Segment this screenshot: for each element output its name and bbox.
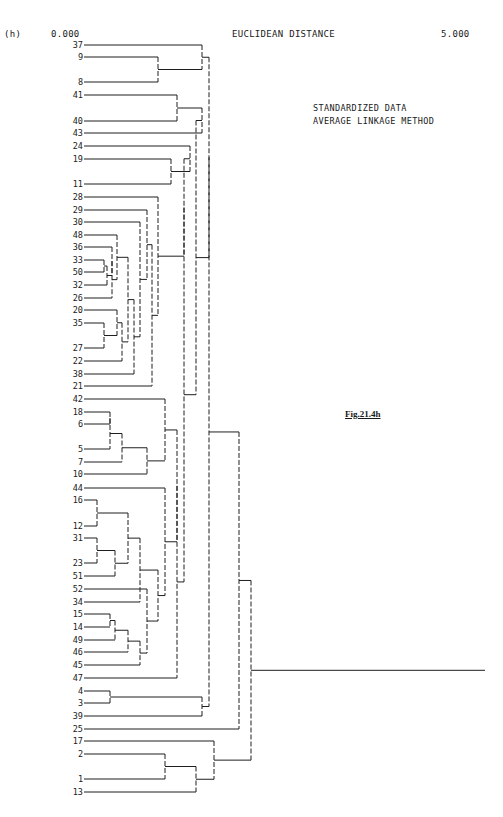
leaf-label: 50: [73, 267, 83, 277]
leaf-label: 24: [73, 141, 83, 151]
leaf-label: 35: [73, 318, 83, 328]
leaf-label: 5: [78, 444, 83, 454]
leaf-label: 4: [78, 686, 83, 696]
leaf-label: 31: [73, 533, 83, 543]
leaf-label: 12: [73, 521, 83, 531]
leaf-label: 30: [73, 217, 83, 227]
leaf-label: 38: [73, 369, 83, 379]
leaf-label: 48: [73, 230, 83, 240]
leaf-label: 15: [73, 609, 83, 619]
leaf-label: 7: [78, 457, 83, 467]
leaf-label: 2: [78, 749, 83, 759]
leaf-label: 47: [73, 673, 83, 683]
leaf-label: 25: [73, 724, 83, 734]
leaf-label: 17: [73, 736, 83, 746]
leaf-label: 23: [73, 558, 83, 568]
leaf-label: 33: [73, 255, 83, 265]
leaf-label: 1: [78, 774, 83, 784]
leaf-label: 18: [73, 407, 83, 417]
leaf-label: 3: [78, 698, 83, 708]
leaf-label: 51: [73, 571, 83, 581]
leaf-label: 27: [73, 343, 83, 353]
dendrogram-plot: 3798414043241911282930483633503226203527…: [0, 0, 503, 817]
leaf-label: 28: [73, 192, 83, 202]
leaf-label: 13: [73, 787, 83, 797]
leaf-label: 45: [73, 660, 83, 670]
leaf-label: 10: [73, 469, 83, 479]
leaf-label: 14: [73, 622, 83, 632]
leaf-label: 6: [78, 419, 83, 429]
leaf-label: 49: [73, 635, 83, 645]
leaf-label: 29: [73, 205, 83, 215]
leaf-label: 16: [73, 495, 83, 505]
leaf-label: 52: [73, 584, 83, 594]
leaf-label: 20: [73, 305, 83, 315]
leaf-label: 8: [78, 77, 83, 87]
leaf-label: 42: [73, 394, 83, 404]
leaf-label: 9: [78, 52, 83, 62]
leaf-label: 39: [73, 711, 83, 721]
leaf-label: 36: [73, 242, 83, 252]
leaf-label: 43: [73, 128, 83, 138]
leaf-label: 21: [73, 381, 83, 391]
leaf-label: 32: [73, 280, 83, 290]
leaf-label: 11: [73, 179, 83, 189]
leaf-label: 37: [73, 40, 83, 50]
leaf-label: 26: [73, 293, 83, 303]
leaf-label: 22: [73, 356, 83, 366]
leaf-label: 41: [73, 90, 83, 100]
leaf-label: 40: [73, 116, 83, 126]
leaf-label: 46: [73, 647, 83, 657]
leaf-label: 34: [73, 597, 83, 607]
leaf-label: 19: [73, 154, 83, 164]
leaf-label: 44: [73, 483, 83, 493]
